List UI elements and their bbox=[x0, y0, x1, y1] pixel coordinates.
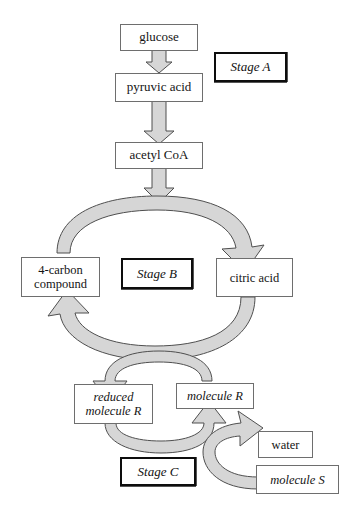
node-acetyl-coa: acetyl CoA bbox=[115, 142, 203, 169]
node-molecule-s-label: molecule S bbox=[270, 473, 325, 487]
diagram-canvas: glucose pyruvic acid acetyl CoA 4-carbon… bbox=[0, 0, 361, 520]
node-citric-acid-label: citric acid bbox=[230, 271, 280, 285]
stage-a-label: Stage A bbox=[231, 59, 271, 75]
stage-c-label: Stage C bbox=[138, 464, 179, 480]
node-glucose-label: glucose bbox=[139, 30, 179, 45]
node-molecule-r-label: molecule R bbox=[187, 389, 243, 403]
node-four-carbon-line2: compound bbox=[34, 277, 87, 291]
node-reduced-molecule-r: reduced molecule R bbox=[74, 384, 153, 424]
node-pyruvic-acid: pyruvic acid bbox=[115, 73, 203, 102]
node-molecule-s: molecule S bbox=[256, 465, 339, 494]
arrow-citric-acid-to-four-carbon bbox=[48, 290, 255, 360]
node-reduced-molecule-r-line2: molecule R bbox=[86, 404, 142, 418]
arrow-pyruvic-acid-to-acetyl-coa bbox=[144, 101, 174, 144]
node-water-label: water bbox=[272, 438, 300, 452]
node-water: water bbox=[258, 431, 313, 458]
stage-b-box: Stage B bbox=[121, 258, 193, 289]
node-glucose: glucose bbox=[120, 24, 198, 51]
stage-a-box: Stage A bbox=[214, 52, 287, 82]
node-molecule-r: molecule R bbox=[176, 383, 254, 409]
stage-c-box: Stage C bbox=[120, 457, 196, 486]
node-acetyl-coa-label: acetyl CoA bbox=[130, 148, 189, 163]
node-reduced-molecule-r-line1: reduced bbox=[86, 390, 142, 404]
node-pyruvic-acid-label: pyruvic acid bbox=[127, 80, 192, 95]
arrow-glucose-to-pyruvic-acid bbox=[146, 50, 172, 73]
node-four-carbon-line1: 4-carbon bbox=[34, 263, 87, 277]
node-four-carbon-compound: 4-carbon compound bbox=[21, 257, 100, 297]
stage-b-label: Stage B bbox=[137, 266, 177, 282]
node-citric-acid: citric acid bbox=[216, 258, 293, 297]
